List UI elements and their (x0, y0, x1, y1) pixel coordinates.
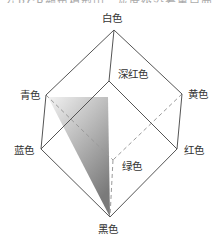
vertex-label-white: 白色 (102, 12, 122, 24)
edge-yellow-red (177, 94, 182, 149)
vertex-label-magenta: 深红色 (118, 68, 148, 80)
edge-magenta-red (109, 81, 177, 149)
vertex-label-yellow: 黄色 (188, 88, 208, 100)
vertex-label-red: 红色 (184, 144, 204, 156)
edge-yellow-green (113, 94, 182, 160)
vertex-label-green: 绿色 (122, 160, 142, 172)
edge-white-cyan (46, 30, 114, 95)
edge-white-magenta (109, 30, 114, 81)
edge-red-black (110, 149, 177, 217)
edge-green-black (110, 160, 113, 217)
vertex-label-blue: 蓝色 (14, 144, 34, 156)
vertex-label-cyan: 青色 (20, 89, 40, 101)
grayscale-triangle (48, 97, 110, 217)
edge-white-yellow (114, 30, 182, 94)
rgb-cube-diagram (0, 0, 218, 239)
vertex-label-black: 黑色 (98, 223, 118, 235)
edge-cyan-blue (41, 95, 46, 149)
